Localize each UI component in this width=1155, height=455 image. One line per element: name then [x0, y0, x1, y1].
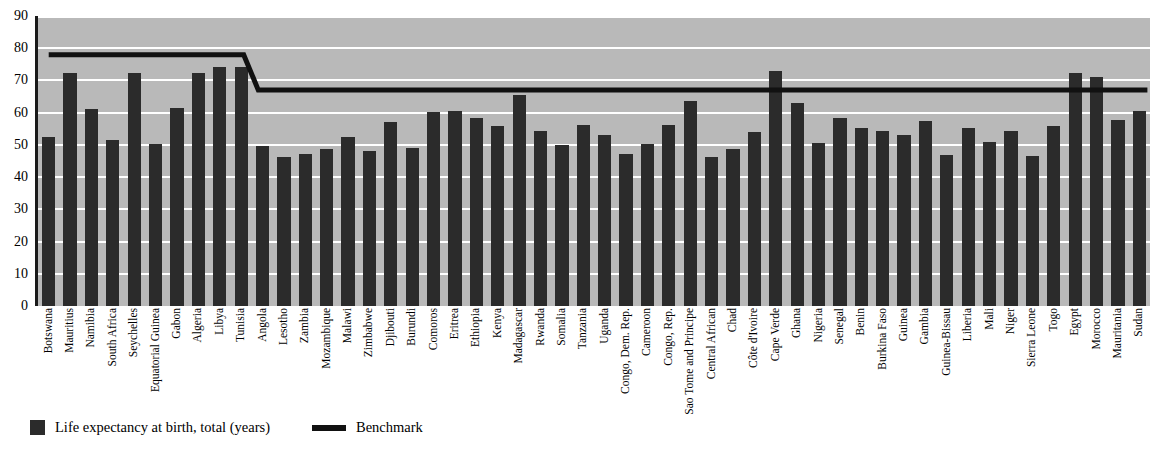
line-swatch-icon	[312, 425, 346, 431]
x-tick-label: Rwanda	[535, 308, 547, 346]
x-tick-label: Mauritania	[1112, 308, 1124, 358]
x-tick-label: Tanzania	[577, 308, 589, 349]
y-tick-label: 80	[14, 41, 28, 55]
x-tick-label: Angola	[257, 308, 269, 342]
y-tick-label: 60	[14, 106, 28, 120]
x-tick-label: Central African	[706, 308, 718, 379]
x-tick-label: Cameroon	[641, 308, 653, 356]
x-tick-label: Nigeria	[813, 308, 825, 342]
y-tick-label: 40	[14, 170, 28, 184]
x-tick-label: Mozambique	[321, 308, 333, 369]
x-tick-label: Seychelles	[128, 308, 140, 357]
x-tick-label: Egypt	[1069, 308, 1081, 335]
legend: Life expectancy at birth, total (years) …	[30, 420, 423, 435]
x-tick-label: Sierra Leone	[1026, 308, 1038, 367]
x-tick-label: Niger	[1005, 308, 1017, 334]
x-tick-label: Libya	[214, 308, 226, 335]
x-tick-label: Burundi	[406, 308, 418, 346]
y-axis: 0102030405060708090	[0, 0, 34, 320]
x-tick-label: Togo	[1048, 308, 1060, 331]
x-tick-label: Eritrea	[449, 308, 461, 339]
x-tick-label: Congo, Rep.	[663, 308, 675, 366]
x-tick-label: Uganda	[599, 308, 611, 344]
x-tick-label: Gabon	[171, 308, 183, 339]
x-tick-label: Madagascar	[513, 308, 525, 364]
y-tick-label: 0	[21, 299, 28, 313]
x-tick-label: South Africa	[107, 308, 119, 366]
x-tick-label: Gambia	[919, 308, 931, 344]
x-tick-label: Mauritius	[64, 308, 76, 353]
x-tick-label: Cape Verde	[770, 308, 782, 361]
x-tick-label: Guinea	[898, 308, 910, 341]
x-tick-label: Morocco	[1091, 308, 1103, 350]
x-tick-label: Chad	[727, 308, 739, 332]
x-tick-label: Comoros	[428, 308, 440, 350]
x-tick-label: Zimbabwe	[363, 308, 375, 357]
x-tick-label: Djibouti	[385, 308, 397, 346]
x-tick-label: Congo, Dem. Rep.	[620, 308, 632, 394]
x-tick-label: Liberia	[962, 308, 974, 341]
x-tick-label: Botswana	[43, 308, 55, 353]
x-tick-label: Lesotho	[278, 308, 290, 345]
x-tick-label: Sao Tome and Principe	[684, 308, 696, 415]
x-tick-label: Zambia	[299, 308, 311, 343]
x-tick-label: Malawi	[342, 308, 354, 343]
x-tick-label: Algeria	[192, 308, 204, 342]
x-tick-label: Guinea-Bissau	[941, 308, 953, 376]
legend-entry-bars: Life expectancy at birth, total (years)	[30, 420, 270, 435]
y-tick-label: 20	[14, 235, 28, 249]
x-tick-label: Namibia	[85, 308, 97, 348]
x-tick-label: Senegal	[834, 308, 846, 344]
life-expectancy-bar-chart: 0102030405060708090 BotswanaMauritiusNam…	[0, 0, 1155, 455]
x-tick-label: Kenya	[492, 308, 504, 338]
x-tick-label: Sudan	[1133, 308, 1145, 337]
legend-entry-benchmark: Benchmark	[312, 420, 423, 435]
x-tick-label: Mali	[984, 308, 996, 330]
y-tick-label: 50	[14, 138, 28, 152]
y-tick-label: 10	[14, 267, 28, 281]
y-tick-label: 30	[14, 202, 28, 216]
x-tick-label: Equatorial Guinea	[150, 308, 162, 392]
x-tick-label: Benin	[855, 308, 867, 335]
legend-label-benchmark: Benchmark	[356, 420, 423, 435]
y-tick-label: 70	[14, 73, 28, 87]
x-tick-label: Somalia	[556, 308, 568, 346]
x-tick-label: Tunisia	[235, 308, 247, 342]
x-tick-label: Côte d'Ivoire	[748, 308, 760, 368]
x-tick-label: Ethiopia	[470, 308, 482, 347]
x-axis: BotswanaMauritiusNamibiaSouth AfricaSeyc…	[38, 308, 1150, 416]
y-tick-label: 90	[14, 9, 28, 23]
x-tick-label: Ghana	[791, 308, 803, 338]
x-tick-label: Burkina Faso	[877, 308, 889, 370]
bar-swatch-icon	[30, 420, 45, 435]
benchmark-line	[38, 16, 1150, 306]
legend-label-bars: Life expectancy at birth, total (years)	[55, 420, 270, 435]
plot-area	[38, 16, 1150, 306]
